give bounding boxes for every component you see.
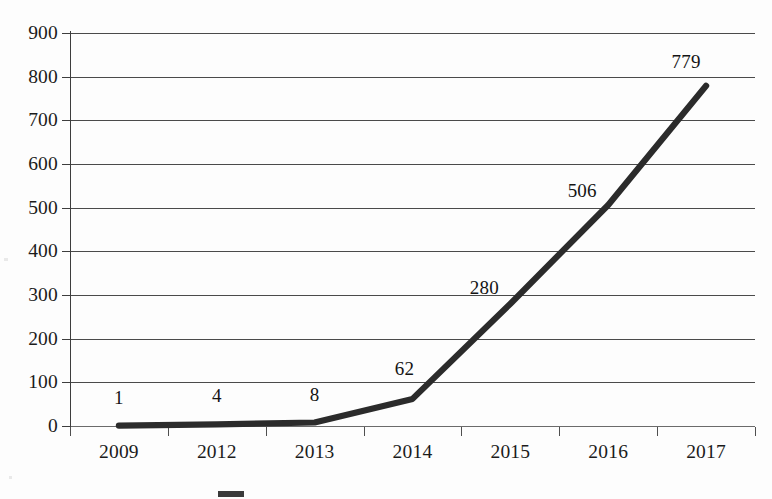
x-axis-tick-label: 2016 <box>563 441 653 463</box>
y-axis-tick-label: 0 <box>6 415 58 437</box>
y-axis-tick <box>62 382 71 383</box>
series-line-swatch <box>218 491 244 497</box>
y-axis-tick-label: 200 <box>6 328 58 350</box>
data-point-label: 8 <box>310 384 320 406</box>
y-axis-tick <box>62 251 71 252</box>
x-axis-tick <box>364 427 365 436</box>
y-axis-tick <box>62 339 71 340</box>
gridline-100 <box>70 382 755 383</box>
y-axis-line <box>70 31 71 428</box>
y-axis-tick <box>62 120 71 121</box>
y-axis-tick-label: 800 <box>6 66 58 88</box>
y-axis-tick <box>62 208 71 209</box>
data-point-label: 4 <box>212 385 222 407</box>
x-axis-tick <box>559 427 560 436</box>
y-axis-tick-label: 400 <box>6 240 58 262</box>
x-axis-tick-label: 2013 <box>270 441 360 463</box>
x-axis-tick <box>657 427 658 436</box>
x-axis-tick-label: 2017 <box>661 441 751 463</box>
gridline-200 <box>70 339 755 340</box>
gridline-600 <box>70 164 755 165</box>
y-axis-tick-label: 300 <box>6 284 58 306</box>
gridline-0 <box>70 426 755 427</box>
data-point-label: 779 <box>672 51 701 73</box>
gridline-900 <box>70 33 755 34</box>
y-axis-tick-label: 700 <box>6 109 58 131</box>
x-axis-tick <box>461 427 462 436</box>
x-axis-tick <box>70 427 71 436</box>
gridline-400 <box>70 251 755 252</box>
x-axis-tick-label: 2009 <box>74 441 164 463</box>
data-point-label: 280 <box>470 277 499 299</box>
y-axis-tick <box>62 77 71 78</box>
y-axis-tick <box>62 33 71 34</box>
gridline-300 <box>70 295 755 296</box>
chart-legend <box>218 489 251 499</box>
data-point-label: 62 <box>395 358 414 380</box>
gridline-700 <box>70 120 755 121</box>
x-axis-tick-label: 2015 <box>465 441 555 463</box>
y-axis-tick-label: 100 <box>6 371 58 393</box>
y-axis-tick-label: 600 <box>6 153 58 175</box>
y-axis-tick <box>62 164 71 165</box>
y-axis-tick-label: 900 <box>6 22 58 44</box>
y-axis-labels: 0100200300400500600700800900 <box>0 0 58 499</box>
x-axis-tick <box>755 427 756 436</box>
data-point-label: 506 <box>568 180 597 202</box>
y-axis-tick-label: 500 <box>6 197 58 219</box>
x-axis-tick <box>266 427 267 436</box>
x-axis-tick <box>168 427 169 436</box>
x-axis-tick-label: 2014 <box>368 441 458 463</box>
line-chart-figure: 0100200300400500600700800900 20092012201… <box>0 0 772 499</box>
gridline-800 <box>70 77 755 78</box>
x-axis-tick-label: 2012 <box>172 441 262 463</box>
y-axis-tick <box>62 295 71 296</box>
gridline-500 <box>70 208 755 209</box>
data-point-label: 1 <box>114 387 124 409</box>
